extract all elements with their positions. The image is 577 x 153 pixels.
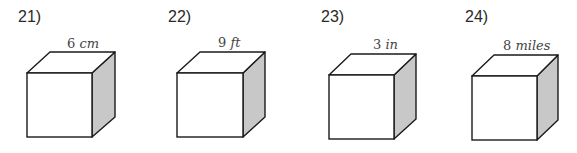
problem-22: 22) 9 ft	[150, 0, 300, 153]
edge-length-label: 9 ft	[218, 35, 240, 50]
problem-24: 24) 8 miles	[440, 0, 577, 153]
edge-unit: miles	[515, 38, 550, 53]
cube-icon	[0, 0, 150, 153]
edge-length-label: 8 miles	[503, 38, 550, 53]
edge-unit: ft	[230, 35, 240, 50]
edge-value: 8	[503, 38, 511, 53]
cube-icon	[440, 0, 577, 153]
edge-unit: in	[385, 37, 398, 52]
problem-21: 21) 6 cm	[0, 0, 150, 153]
edge-value: 6	[67, 36, 75, 51]
cube-icon	[300, 0, 450, 153]
edge-length-label: 6 cm	[67, 36, 99, 51]
edge-unit: cm	[79, 36, 99, 51]
edge-length-label: 3 in	[373, 37, 398, 52]
edge-value: 9	[218, 35, 226, 50]
cube-icon	[150, 0, 300, 153]
edge-value: 3	[373, 37, 381, 52]
problem-23: 23) 3 in	[300, 0, 450, 153]
